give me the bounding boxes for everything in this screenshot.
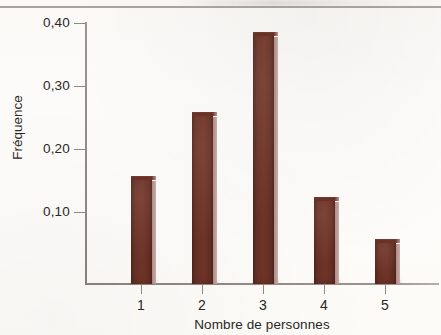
x-tick-label-1: 1 — [121, 297, 161, 313]
y-axis-title: Fréquence — [10, 78, 25, 178]
bar-2[interactable] — [192, 113, 213, 284]
bar-5[interactable] — [375, 240, 396, 284]
y-tick-mark-010 — [74, 212, 85, 213]
x-tick-label-3: 3 — [243, 297, 283, 313]
x-tick-label-2: 2 — [182, 297, 222, 313]
bar-1[interactable] — [131, 177, 152, 284]
bar-3[interactable] — [253, 33, 274, 284]
bar-chart: 0,40 0,30 0,20 0,10 Fréquence 1 2 3 4 5 … — [0, 0, 441, 335]
y-tick-label-020: 0,20 — [43, 141, 70, 156]
y-tick-label-040: 0,40 — [43, 15, 70, 30]
x-tick-label-4: 4 — [304, 297, 344, 313]
x-axis-title: Nombre de personnes — [85, 317, 439, 332]
y-tick-mark-040 — [74, 23, 85, 24]
x-tick-mark-2 — [202, 285, 203, 294]
x-tick-mark-5 — [385, 285, 386, 294]
y-tick-row: 0,10 — [0, 204, 70, 220]
x-tick-mark-4 — [324, 285, 325, 294]
x-tick-mark-3 — [263, 285, 264, 294]
y-tick-label-010: 0,10 — [43, 204, 70, 219]
y-tick-label-030: 0,30 — [43, 78, 70, 93]
y-tick-row: 0,40 — [0, 15, 70, 31]
x-tick-mark-1 — [141, 285, 142, 294]
y-tick-mark-020 — [74, 149, 85, 150]
y-axis-line — [85, 22, 87, 284]
x-tick-label-5: 5 — [365, 297, 405, 313]
y-tick-mark-030 — [74, 86, 85, 87]
bar-4[interactable] — [314, 198, 335, 284]
